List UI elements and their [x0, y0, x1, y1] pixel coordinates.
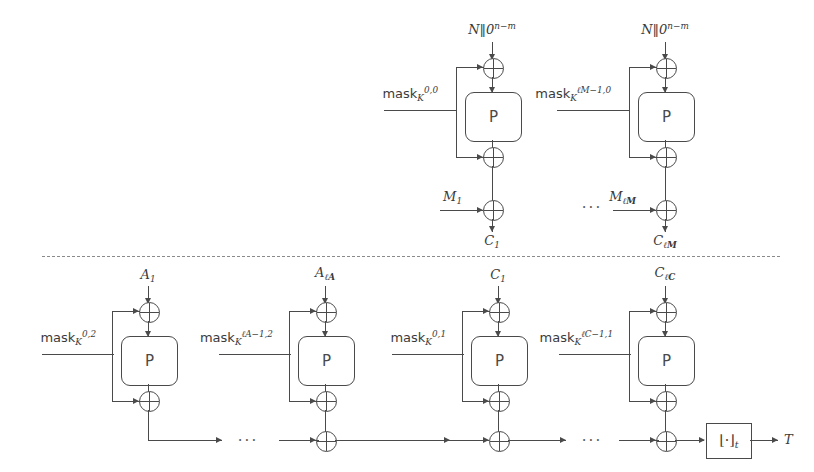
- message-label-2: MℓM: [609, 190, 636, 205]
- auth-xor-bottom-2: [316, 391, 337, 412]
- mask-label-2: maskKℓM−1,0: [535, 86, 611, 102]
- auth-mask-bottom-arrowhead-3: [483, 398, 489, 404]
- chain-segment-3: [508, 440, 566, 441]
- auth-input-label-2: AℓA: [315, 266, 335, 281]
- cipher-label-2: CℓM: [653, 234, 677, 249]
- chain-arrowhead-1: [216, 437, 222, 443]
- auth-input-label-4: CℓC: [655, 266, 676, 281]
- message-label-1: M1: [443, 190, 462, 205]
- auth-ellipsis-1: ···: [238, 431, 258, 449]
- auth-xor-top-2: [316, 302, 337, 323]
- auth-mask-wire-3: [392, 354, 464, 355]
- auth-xor-bottom-1: [139, 391, 160, 412]
- chain-xor-4: [656, 431, 677, 452]
- chain-xor-3: [489, 431, 510, 452]
- truncation-label: ⌊·⌋t: [719, 432, 738, 450]
- cipher-label-1: C1: [484, 234, 500, 249]
- chain-start-vertical: [148, 410, 149, 440]
- truncation-in-arrowhead: [699, 437, 705, 443]
- cipher-arrowhead-2: [662, 226, 668, 232]
- auth-down-to-chain-3: [498, 410, 499, 432]
- auth-permutation-box-4: P: [638, 336, 695, 386]
- auth-mask-bracket-4: [629, 311, 630, 401]
- auth-permutation-box-3: P: [471, 336, 528, 386]
- mask-bottom-arrowhead-2: [650, 154, 656, 160]
- auth-xor-top-1: [139, 302, 160, 323]
- chain-xor-2: [316, 431, 337, 452]
- tag-arrowhead: [772, 437, 778, 443]
- chain-arrowhead-3: [560, 437, 566, 443]
- auth-input-label-3: C1: [490, 268, 506, 283]
- mask-wire-2: [557, 110, 629, 111]
- tag-label: T: [784, 433, 793, 446]
- auth-mask-bottom-arrowhead-4: [650, 398, 656, 404]
- encryption-ellipsis: ···: [582, 198, 602, 216]
- chain-start-horizontal: [148, 440, 222, 441]
- truncation-box: ⌊·⌋t: [706, 423, 752, 459]
- mask-bottom-arrowhead-1: [477, 154, 483, 160]
- nonce-label-2: N‖0n−m: [641, 22, 689, 36]
- chain-segment-2: [335, 440, 489, 441]
- mask-label-1: maskK0,0: [382, 86, 438, 102]
- auth-permutation-box-1: P: [121, 336, 178, 386]
- mask-bracket-vertical-2: [629, 67, 630, 157]
- chain-in-arrowhead-3: [483, 437, 489, 443]
- xor-message-2: [656, 200, 677, 221]
- auth-mask-bracket-1: [112, 311, 113, 401]
- xor-message-1: [483, 200, 504, 221]
- xor-top-1: [483, 58, 504, 79]
- auth-mask-wire-4: [559, 354, 631, 355]
- xor-to-msg-wire-1: [492, 166, 493, 201]
- auth-permutation-box-2: P: [298, 336, 355, 386]
- mask-wire-1: [384, 110, 456, 111]
- auth-mask-top-arrowhead-2: [310, 308, 316, 314]
- aead-mode-diagram: N‖0n−m P maskK0,0 M1 C1 ··· N‖0n−m P: [0, 0, 814, 472]
- auth-mask-label-3: maskK0,1: [390, 330, 446, 346]
- auth-mask-wire-2: [219, 354, 291, 355]
- auth-mask-label-1: maskK0,2: [40, 330, 96, 346]
- xor-bottom-1: [483, 147, 504, 168]
- auth-mask-label-4: maskKℓC−1,1: [540, 330, 613, 346]
- section-divider: [42, 256, 780, 257]
- auth-mask-bracket-2: [289, 311, 290, 401]
- auth-ellipsis-2: ···: [582, 431, 602, 449]
- auth-xor-bottom-3: [489, 391, 510, 412]
- auth-mask-bottom-arrowhead-1: [133, 398, 139, 404]
- auth-mask-top-arrowhead-3: [483, 308, 489, 314]
- auth-mask-top-arrowhead-1: [133, 308, 139, 314]
- auth-input-label-1: A1: [140, 268, 155, 283]
- permutation-box-1: P: [465, 92, 522, 142]
- cipher-arrowhead-1: [489, 226, 495, 232]
- xor-to-msg-wire-2: [665, 166, 666, 201]
- permutation-box-2: P: [638, 92, 695, 142]
- xor-bottom-2: [656, 147, 677, 168]
- auth-mask-top-arrowhead-4: [650, 308, 656, 314]
- chain-in-arrowhead-2: [310, 437, 316, 443]
- mask-top-arrowhead-1: [477, 64, 483, 70]
- xor-top-2: [656, 58, 677, 79]
- chain-in-arrowhead-4: [650, 437, 656, 443]
- auth-xor-top-3: [489, 302, 510, 323]
- chain-arrowhead-2: [444, 437, 450, 443]
- auth-down-to-chain-4: [665, 410, 666, 432]
- auth-mask-wire-1: [42, 354, 114, 355]
- mask-top-arrowhead-2: [650, 64, 656, 70]
- auth-mask-bottom-arrowhead-2: [310, 398, 316, 404]
- nonce-label-1: N‖0n−m: [468, 22, 516, 36]
- auth-mask-label-2: maskKℓA−1,2: [200, 330, 273, 346]
- auth-mask-bracket-3: [462, 311, 463, 401]
- auth-down-to-chain-2: [325, 410, 326, 432]
- mask-bracket-vertical-1: [456, 67, 457, 157]
- auth-xor-bottom-4: [656, 391, 677, 412]
- auth-xor-top-4: [656, 302, 677, 323]
